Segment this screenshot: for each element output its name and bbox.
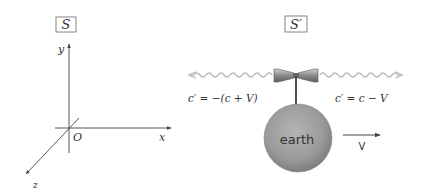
left-signal-label: c′ = −(c + V) (188, 92, 258, 104)
right-wave-icon (320, 73, 402, 77)
z-axis (26, 118, 79, 174)
y-axis-label: y (57, 43, 65, 56)
velocity-label: V (359, 141, 366, 152)
earth-label: earth (280, 132, 315, 147)
frame-s: S y x z O (26, 17, 171, 190)
origin-label: O (73, 131, 82, 144)
right-signal-label: c′ = c − V (335, 92, 389, 104)
left-wave-icon (189, 73, 272, 77)
frame-s-prime: S′ c′ = −(c + V) c′ = c − V earth V (188, 16, 402, 172)
z-axis-label: z (32, 180, 38, 190)
frame-s-prime-label: S′ (290, 17, 302, 32)
x-axis-label: x (159, 131, 166, 144)
emitter-icon (274, 69, 318, 106)
frame-s-label: S (62, 17, 71, 32)
diagram-canvas: S y x z O S′ c′ = −(c + V) c′ = c − V ea… (0, 0, 423, 196)
